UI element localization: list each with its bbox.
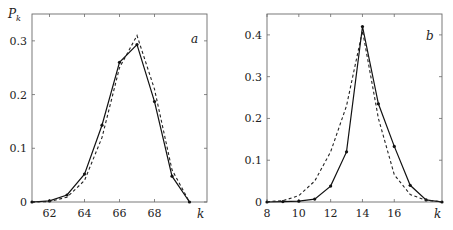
data-point-marker xyxy=(153,100,156,103)
y-tick-label: 0.2 xyxy=(10,89,28,102)
data-point-marker xyxy=(100,124,103,127)
x-tick-label: 16 xyxy=(387,207,401,220)
panel-a-series xyxy=(30,36,191,204)
x-tick-label: 62 xyxy=(43,207,57,220)
panel-b-frame xyxy=(267,14,442,202)
x-tick-label: 12 xyxy=(324,207,338,220)
data-point-marker xyxy=(83,172,86,175)
y-tick-label: 0.3 xyxy=(245,71,263,84)
panel-b-label: b xyxy=(426,29,434,43)
panel-a-y-axis-label: Pk xyxy=(7,7,21,23)
panel-b-series xyxy=(265,25,443,204)
panel-a-x-axis-label: k xyxy=(197,207,204,221)
y-tick-label: 0.4 xyxy=(245,29,263,42)
data-point-marker xyxy=(170,175,173,178)
x-tick-label: 64 xyxy=(78,207,92,220)
x-tick-label: 68 xyxy=(148,207,162,220)
data-point-marker xyxy=(361,25,364,28)
panel-a-chart: 6264666800.10.20.3 Pk a k xyxy=(7,7,207,221)
panel-b-axis-ticks: 81012141600.10.20.30.4 xyxy=(245,14,443,220)
data-point-marker xyxy=(118,61,121,64)
data-point-marker xyxy=(188,200,191,203)
panel-b-x-axis-label: k xyxy=(434,207,441,221)
panel-a-frame xyxy=(32,14,207,202)
solid-series-line xyxy=(267,27,442,203)
x-tick-label: 66 xyxy=(113,207,127,220)
x-tick-label: 8 xyxy=(264,207,271,220)
data-point-marker xyxy=(329,185,332,188)
data-point-marker xyxy=(440,200,443,203)
data-point-marker xyxy=(65,193,68,196)
panel-b-chart: 81012141600.10.20.30.4 b k xyxy=(245,14,444,221)
data-point-marker xyxy=(393,145,396,148)
x-tick-label: 10 xyxy=(292,207,306,220)
dashed-series-line xyxy=(267,31,442,202)
panel-a-label: a xyxy=(191,32,198,46)
data-point-marker xyxy=(377,102,380,105)
y-tick-label: 0 xyxy=(20,196,27,209)
data-point-marker xyxy=(135,43,138,46)
chart-figure: 6264666800.10.20.3 Pk a k 81012141600.10… xyxy=(0,0,453,230)
y-tick-label: 0.1 xyxy=(10,142,28,155)
data-point-marker xyxy=(409,184,412,187)
solid-series-line xyxy=(32,45,190,202)
data-point-marker xyxy=(313,197,316,200)
data-point-marker xyxy=(345,150,348,153)
data-point-marker xyxy=(297,200,300,203)
panel-a-axis-ticks: 6264666800.10.20.3 xyxy=(10,14,208,220)
x-tick-label: 14 xyxy=(355,207,369,220)
dashed-series-line xyxy=(32,36,190,203)
y-tick-label: 0.1 xyxy=(245,154,263,167)
y-tick-label: 0.2 xyxy=(245,112,263,125)
y-tick-label: 0.3 xyxy=(10,35,28,48)
y-tick-label: 0 xyxy=(255,196,262,209)
